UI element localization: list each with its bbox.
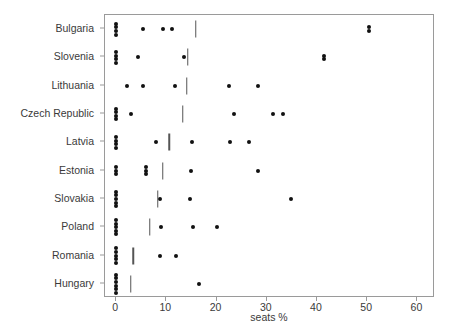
- y-tick-label-czech-republic: Czech Republic: [0, 108, 94, 119]
- data-point: [322, 57, 326, 61]
- data-point: [114, 117, 118, 121]
- data-point: [256, 84, 260, 88]
- plot-area: [104, 14, 434, 297]
- y-tick-label-lithuania: Lithuania: [0, 80, 94, 91]
- data-point: [158, 254, 162, 258]
- data-point: [154, 140, 158, 144]
- reference-marker: [182, 106, 184, 123]
- data-point: [174, 254, 178, 258]
- reference-marker: [149, 219, 151, 236]
- data-point: [289, 197, 293, 201]
- reference-marker: [132, 247, 134, 264]
- data-point: [161, 27, 165, 31]
- data-point: [114, 146, 118, 150]
- data-point: [190, 140, 194, 144]
- data-point: [271, 112, 275, 116]
- data-point: [232, 112, 236, 116]
- data-point: [114, 204, 118, 208]
- reference-marker: [195, 21, 197, 38]
- y-tick-label-bulgaria: Bulgaria: [0, 23, 94, 34]
- data-point: [114, 261, 118, 265]
- data-point: [281, 112, 285, 116]
- reference-marker: [157, 190, 159, 207]
- data-point: [129, 112, 133, 116]
- data-point: [159, 225, 163, 229]
- data-point: [173, 84, 177, 88]
- y-tick-label-slovenia: Slovenia: [0, 51, 94, 62]
- data-point: [114, 291, 118, 295]
- data-point: [141, 27, 145, 31]
- figure-container: BulgariaSloveniaLithuaniaCzech RepublicL…: [0, 0, 468, 333]
- data-point: [228, 140, 232, 144]
- data-point: [114, 232, 118, 236]
- x-axis-title: seats %: [104, 311, 434, 323]
- y-tick-label-latvia: Latvia: [0, 136, 94, 147]
- data-point: [215, 225, 219, 229]
- reference-marker: [186, 77, 188, 94]
- reference-marker: [162, 162, 164, 179]
- reference-marker: [187, 49, 189, 66]
- data-point: [144, 172, 148, 176]
- data-point: [227, 84, 231, 88]
- data-point: [170, 27, 174, 31]
- data-point: [256, 169, 260, 173]
- data-point: [182, 55, 186, 59]
- y-tick-label-poland: Poland: [0, 221, 94, 232]
- data-point: [188, 197, 192, 201]
- y-tick-label-estonia: Estonia: [0, 164, 94, 175]
- data-point: [125, 84, 129, 88]
- data-point: [367, 29, 371, 33]
- reference-marker: [130, 275, 132, 292]
- reference-marker: [169, 134, 171, 151]
- y-axis-labels: BulgariaSloveniaLithuaniaCzech RepublicL…: [0, 14, 100, 297]
- data-point: [114, 172, 118, 176]
- data-point: [247, 140, 251, 144]
- data-point: [136, 55, 140, 59]
- data-point: [141, 84, 145, 88]
- y-tick-label-slovakia: Slovakia: [0, 193, 94, 204]
- data-point: [197, 282, 201, 286]
- data-point: [114, 33, 118, 37]
- data-point: [189, 169, 193, 173]
- data-point: [158, 197, 162, 201]
- y-tick-label-romania: Romania: [0, 249, 94, 260]
- data-point: [114, 61, 118, 65]
- y-tick-label-hungary: Hungary: [0, 278, 94, 289]
- data-point: [191, 225, 195, 229]
